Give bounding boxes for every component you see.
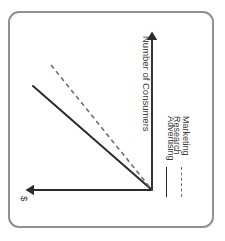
legend-swatch-solid-line-icon (166, 167, 167, 197)
y-axis-label: Number of Consumers (141, 36, 151, 106)
legend-swatch-dashed-line-icon (181, 167, 182, 197)
chart-legend: Advertising Marketing Research (166, 116, 212, 200)
series-line-advertising (33, 86, 152, 190)
series-line-marketing-research (51, 65, 152, 190)
x-axis-label: $ (19, 196, 29, 201)
figure-root: Number of Consumers $ Advertising Market… (0, 0, 225, 241)
